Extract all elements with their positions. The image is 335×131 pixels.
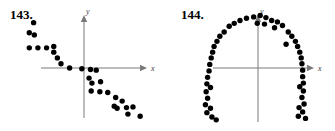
data-point [114, 106, 119, 111]
data-point [300, 74, 305, 79]
data-point [297, 49, 302, 54]
figure-144-x-axis-arrowhead [307, 65, 314, 71]
data-point [301, 101, 306, 106]
data-point [98, 79, 103, 84]
figure-143-data-points [27, 20, 143, 119]
figure-143-y-axis-arrowhead [81, 15, 87, 22]
data-point [89, 80, 94, 85]
data-point [303, 116, 308, 121]
data-point [208, 106, 213, 111]
data-point [208, 85, 213, 90]
data-point [31, 20, 36, 25]
data-point [286, 29, 291, 34]
figure-144-x-axis-label: x [317, 64, 322, 73]
data-point [300, 109, 305, 114]
data-point [214, 117, 219, 122]
data-point [205, 75, 210, 80]
data-point [97, 89, 102, 94]
textbook-exercise-figures: 143. x y 144. [0, 0, 335, 131]
data-point [221, 29, 226, 34]
figure-143-scatter-plot: x y [0, 0, 167, 131]
figure-143-x-axis-arrowhead [140, 65, 147, 71]
figure-144-scatter-plot: x y [167, 0, 335, 131]
data-point [217, 34, 222, 39]
data-point [296, 114, 301, 119]
data-point [206, 68, 211, 73]
figure-144: 144. x y [167, 0, 335, 131]
data-point [300, 67, 305, 72]
data-point [55, 55, 60, 60]
data-point [207, 62, 212, 67]
data-point [32, 32, 37, 37]
data-point [262, 21, 267, 26]
data-point [299, 95, 304, 100]
data-point [27, 30, 32, 35]
data-point [299, 55, 304, 60]
data-point [210, 49, 215, 54]
data-point [280, 23, 285, 28]
data-point [211, 44, 216, 49]
data-point [214, 39, 219, 44]
data-point [58, 61, 63, 66]
data-point [283, 42, 288, 47]
data-point [275, 19, 280, 24]
data-point [237, 18, 242, 23]
data-point [86, 75, 91, 80]
figure-143-x-axis-label: x [150, 64, 155, 73]
data-point [244, 16, 249, 21]
data-point [94, 67, 99, 72]
data-point [299, 61, 304, 66]
data-point [297, 84, 302, 89]
data-point [296, 105, 301, 110]
data-point [209, 55, 214, 60]
figure-143: 143. x y [0, 0, 167, 131]
data-point [263, 15, 268, 20]
data-point [257, 13, 262, 18]
data-point [79, 66, 84, 71]
data-point [89, 88, 94, 93]
figure-143-y-axis-label: y [85, 7, 90, 16]
data-point [51, 44, 56, 49]
data-point [272, 25, 277, 30]
data-point [44, 45, 49, 50]
data-point [203, 89, 208, 94]
data-point [27, 45, 32, 50]
figure-144-svg-canvas: x y [167, 0, 335, 131]
data-point [227, 24, 232, 29]
data-point [137, 114, 142, 119]
data-point [293, 39, 298, 44]
data-point [119, 98, 124, 103]
data-point [130, 104, 135, 109]
data-point [232, 21, 237, 26]
data-point [67, 65, 72, 70]
data-point [255, 21, 260, 26]
data-point [51, 49, 56, 54]
data-point [35, 45, 40, 50]
data-point [251, 14, 256, 19]
data-point [295, 44, 300, 49]
data-point [269, 18, 274, 23]
data-point [203, 102, 208, 107]
data-point [124, 105, 129, 110]
data-point [301, 88, 306, 93]
data-point [289, 34, 294, 39]
data-point [113, 95, 118, 100]
data-point [88, 67, 93, 72]
data-point [205, 96, 210, 101]
data-point [204, 110, 209, 115]
data-point [125, 111, 130, 116]
figure-143-svg-canvas: x y [0, 0, 167, 131]
data-point [105, 90, 110, 95]
